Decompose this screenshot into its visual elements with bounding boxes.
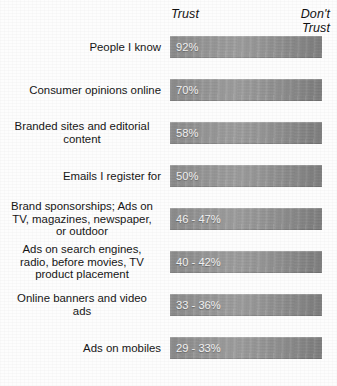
row-label-line: Consumer opinions online [3,84,161,97]
bar-track: 33 - 36% [170,294,322,316]
row-label-line: radio, before movies, TV [3,256,161,269]
bar-track: 46 - 47% [170,208,322,230]
row-label: Ads on mobiles [3,342,167,355]
row-label-line: Ads on mobiles [3,342,161,355]
bar-value-label: 50% [176,169,198,183]
bar-track: 29 - 33% [170,337,322,359]
bar-track: 70% [170,79,322,101]
chart-rows: People I know92%Consumer opinions online… [0,36,337,380]
row-label: Ads on search engines,radio, before movi… [3,243,167,281]
row-label-line: Brand sponsorships; Ads on [3,200,161,213]
bar-value-label: 92% [176,40,198,54]
chart-row: People I know92% [0,36,337,79]
row-label: Emails I register for [3,170,167,183]
row-label: Online banners and videoads [3,292,167,317]
row-label-line: People I know [3,41,161,54]
row-label: Branded sites and editorialcontent [3,120,167,145]
row-label-line: Online banners and video [3,292,161,305]
bar-track: 58% [170,122,322,144]
bar-value-label: 33 - 36% [176,298,221,312]
bar-value-label: 46 - 47% [176,212,221,226]
bar-value-label: 58% [176,126,198,140]
row-label: Brand sponsorships; Ads onTV, magazines,… [3,200,167,238]
bar-track: 40 - 42% [170,251,322,273]
axis-label-dont-trust: Don't Trust [301,7,330,35]
chart-axis-header: Trust Don't Trust [0,5,337,37]
row-label-line: or outdoor [3,225,161,238]
row-label-line: product placement [3,268,161,281]
chart-row: Consumer opinions online70% [0,79,337,122]
trust-in-advertising-chart: Trust Don't Trust People I know92%Consum… [0,0,337,386]
row-label-line: Ads on search engines, [3,243,161,256]
row-label-line: Emails I register for [3,170,161,183]
row-label-line: Branded sites and editorial [3,120,161,133]
row-label: Consumer opinions online [3,84,167,97]
row-label-line: ads [3,305,161,318]
chart-row: Ads on mobiles29 - 33% [0,337,337,380]
bar-track: 92% [170,36,322,58]
chart-row: Online banners and videoads33 - 36% [0,294,337,337]
bar-track: 50% [170,165,322,187]
bar-value-label: 29 - 33% [176,341,221,355]
bar-value-label: 40 - 42% [176,255,221,269]
row-label-line: content [3,133,161,146]
axis-label-trust: Trust [171,7,199,21]
row-label: People I know [3,41,167,54]
row-label-line: TV, magazines, newspaper, [3,213,161,226]
chart-row: Ads on search engines,radio, before movi… [0,251,337,294]
chart-row: Branded sites and editorialcontent58% [0,122,337,165]
bar-value-label: 70% [176,83,198,97]
